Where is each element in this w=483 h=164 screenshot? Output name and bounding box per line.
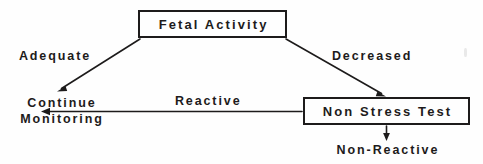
- edge-label-reactive: Reactive: [173, 94, 242, 108]
- node-non-stress-test-label: Non Stress Test: [321, 105, 453, 118]
- node-non-stress-test[interactable]: Non Stress Test: [303, 97, 470, 125]
- edge-non-reactive-arrow: [383, 126, 390, 141]
- node-continue-monitoring-line1: Continue: [6, 95, 116, 111]
- node-continue-monitoring-line2: Monitoring: [6, 111, 116, 127]
- edge-decreased-arrow: [286, 39, 386, 97]
- node-non-reactive-label: Non-Reactive: [337, 143, 440, 157]
- node-fetal-activity-label: Fetal Activity: [157, 18, 269, 31]
- edge-label-decreased: Decreased: [330, 49, 412, 63]
- node-fetal-activity[interactable]: Fetal Activity: [138, 10, 287, 38]
- node-non-reactive[interactable]: Non-Reactive: [325, 143, 449, 157]
- edge-label-adequate: Adequate: [17, 49, 91, 63]
- edge-adequate-arrow: [57, 39, 140, 92]
- node-continue-monitoring[interactable]: Continue Monitoring: [6, 95, 116, 127]
- flowchart-canvas: Fetal Activity Non Stress Test Continue …: [0, 0, 483, 164]
- scan-artifact-speck: [464, 48, 467, 57]
